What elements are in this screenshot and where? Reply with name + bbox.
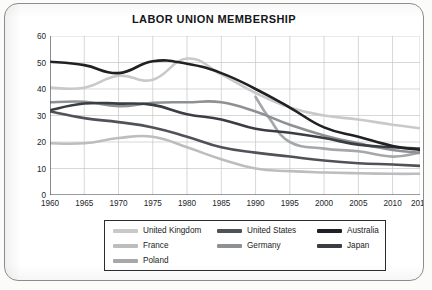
y-tick-label: 10 [37,164,46,173]
x-tick-label: 1970 [109,199,127,208]
chart-card: LABOR UNION MEMBERSHIP PERCENTAGE OF LAB… [4,3,424,281]
x-tick-label: 1990 [246,199,264,208]
x-tick-label: 2000 [315,199,333,208]
x-tick-label: 2014 [411,199,424,208]
legend-label: United Kingdom [143,226,201,235]
series-lines [50,58,420,173]
y-tick-label: 20 [37,138,46,147]
series-line [50,58,420,128]
legend-swatch-icon [113,244,138,248]
x-tick-label: 1975 [144,199,162,208]
legend-label: Poland [143,256,169,265]
legend-item: France [113,241,217,250]
x-tick-label: 2010 [383,199,401,208]
legend-label: France [143,241,168,250]
legend-item: Japan [317,241,379,250]
legend-swatch-icon [217,229,242,233]
x-tick-label: 1965 [75,199,93,208]
legend-item: United States [217,226,317,235]
legend-swatch-icon [317,229,342,233]
legend-item: Germany [217,241,317,250]
legend-swatch-icon [113,259,138,263]
y-tick-label: 50 [37,58,46,67]
legend-label: Japan [347,241,369,250]
x-tick-label: 1985 [212,199,230,208]
legend-item: Australia [317,226,379,235]
legend-label: Germany [247,241,281,250]
legend-grid: United KingdomUnited StatesAustraliaFran… [113,226,379,265]
grid-lines [50,36,420,195]
chart-title: LABOR UNION MEMBERSHIP [5,13,423,25]
legend-swatch-icon [217,244,242,248]
y-tick-label: 30 [37,111,46,120]
legend-label: United States [247,226,296,235]
y-tick-label: 40 [37,85,46,94]
legend-swatch-icon [113,229,138,233]
legend-label: Australia [347,226,379,235]
chart-plot-svg [50,36,420,195]
legend-swatch-icon [317,244,342,248]
legend-item: United Kingdom [113,226,217,235]
x-tick-label: 2005 [349,199,367,208]
x-tick-label: 1960 [41,199,59,208]
chart-legend: United KingdomUnited StatesAustraliaFran… [104,220,386,271]
plot-area: 0102030405060 19601965197019751980198519… [50,36,420,195]
series-line [50,136,420,174]
legend-item: Poland [113,256,217,265]
x-tick-label: 1980 [178,199,196,208]
y-tick-label: 60 [37,32,46,41]
x-tick-label: 1995 [281,199,299,208]
